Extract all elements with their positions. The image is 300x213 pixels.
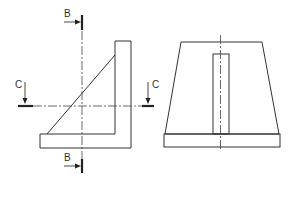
section-label-c-left: C bbox=[15, 79, 22, 90]
central-rib bbox=[213, 54, 229, 134]
section-label-b-bottom: B bbox=[64, 152, 71, 163]
bracket-outline bbox=[40, 41, 131, 148]
trapezoid-profile bbox=[165, 42, 279, 134]
section-marker-b-top: B bbox=[64, 8, 82, 30]
gusset-edge bbox=[47, 55, 115, 134]
section-marker-c-right: C bbox=[142, 79, 159, 106]
side-view bbox=[164, 35, 280, 151]
section-marker-b-bottom: B bbox=[64, 152, 82, 173]
front-view bbox=[40, 41, 131, 148]
technical-drawing: B B C C bbox=[0, 0, 300, 213]
section-marker-c-left: C bbox=[15, 79, 33, 106]
section-label-c-right: C bbox=[152, 79, 159, 90]
side-base bbox=[164, 134, 280, 147]
section-label-b-top: B bbox=[64, 8, 71, 19]
